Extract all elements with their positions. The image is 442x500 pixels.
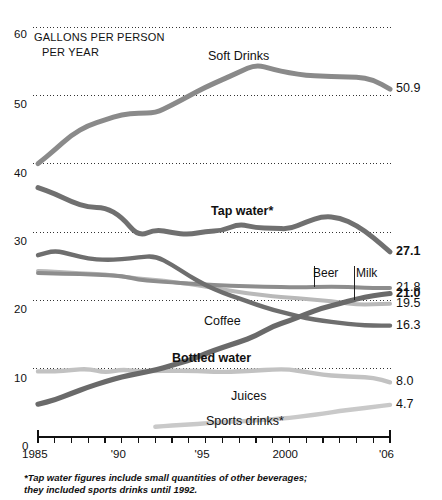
end-value-bottled-water: 21.0	[396, 287, 420, 300]
series-lines	[38, 66, 390, 427]
beer-callout-label: Beer	[313, 267, 338, 279]
x-axis	[38, 430, 390, 443]
x-tick-label-1990: '90	[111, 449, 126, 461]
series-line-soft-drinks	[38, 66, 390, 164]
y-axis-caption-line2: PER YEAR	[42, 46, 99, 59]
x-tick-label-1985: 1985	[22, 449, 48, 461]
beverage-consumption-chart: 0102030405060 GALLONS PER PERSON PER YEA…	[0, 0, 442, 500]
x-tick-label-2000: 2000	[272, 449, 298, 461]
series-line-bottled-water	[38, 294, 390, 405]
x-tick-label-1995: '95	[195, 449, 210, 461]
end-value-sports-drinks: 4.7	[396, 398, 413, 411]
milk-callout-label: Milk	[356, 267, 377, 279]
y-tick-label-60: 60	[14, 29, 27, 41]
y-axis-caption-line1: GALLONS PER PERSON	[34, 31, 165, 44]
chart-footnote: *Tap water figures include small quantit…	[24, 472, 324, 495]
end-value-coffee: 16.3	[396, 319, 420, 332]
end-value-juices: 8.0	[396, 375, 413, 388]
series-label-coffee: Coffee	[204, 315, 241, 328]
series-label-tap-water: Tap water*	[211, 205, 273, 218]
y-tick-label-10: 10	[14, 373, 27, 385]
series-line-tap-water	[38, 188, 390, 252]
y-tick-label-40: 40	[14, 168, 27, 180]
series-label-sports-drinks: Sports drinks*	[206, 415, 284, 428]
series-line-juices	[38, 369, 390, 382]
end-value-tap-water: 27.1	[396, 245, 420, 258]
series-label-juices: Juices	[231, 390, 266, 403]
series-label-soft-drinks: Soft Drinks	[208, 50, 269, 63]
y-tick-label-50: 50	[14, 99, 27, 111]
end-value-soft-drinks: 50.9	[396, 82, 420, 95]
y-tick-label-20: 20	[14, 304, 27, 316]
x-tick-label-2006: '06	[379, 449, 394, 461]
y-tick-label-30: 30	[14, 236, 27, 248]
series-label-bottled-water: Bottled water	[172, 352, 251, 365]
